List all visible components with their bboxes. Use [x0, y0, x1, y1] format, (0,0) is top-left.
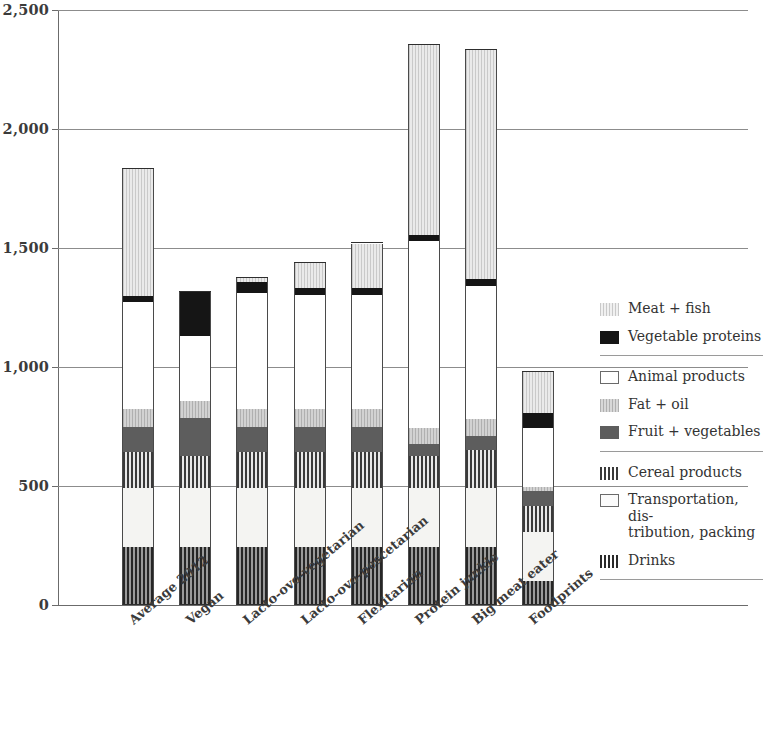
legend-item[interactable]: Cereal products: [600, 464, 763, 481]
bar-segment-fruit[interactable]: [179, 418, 211, 456]
legend-item[interactable]: Fruit + vegetables: [600, 423, 763, 440]
bar-segment-vegprot[interactable]: [122, 296, 154, 302]
bar-segment-fat[interactable]: [122, 409, 154, 427]
bar-segment-transport[interactable]: [122, 488, 154, 546]
gridline: [58, 10, 748, 11]
legend-item-label: Meat + fish: [628, 300, 711, 317]
y-axis-line: [58, 10, 59, 606]
bar[interactable]: [351, 10, 383, 605]
bar-top-cap: [351, 242, 383, 243]
bar-segment-transport[interactable]: [294, 488, 326, 546]
bar-segment-transport[interactable]: [465, 488, 497, 546]
vegetable-proteins-swatch: [600, 331, 619, 344]
bar-segment-animal[interactable]: [294, 295, 326, 409]
bar-segment-meat[interactable]: [236, 278, 268, 282]
bar-top-cap: [522, 371, 554, 372]
legend-item-label: Fat + oil: [628, 396, 689, 413]
bar-segment-animal[interactable]: [351, 295, 383, 409]
animal-products-swatch: [600, 371, 619, 384]
bar-segment-fruit[interactable]: [351, 427, 383, 452]
bar-segment-vegprot[interactable]: [408, 235, 440, 241]
bar-top-cap: [179, 291, 211, 292]
bar-segment-animal[interactable]: [122, 302, 154, 409]
bar-top-cap: [122, 168, 154, 169]
y-axis-tick-label: 500: [18, 477, 49, 494]
legend-separator: [600, 355, 763, 356]
bar-segment-fat[interactable]: [351, 409, 383, 427]
bar-segment-cereal[interactable]: [465, 450, 497, 488]
bar-segment-vegprot[interactable]: [179, 292, 211, 336]
gridline: [58, 129, 748, 130]
bar-segment-cereal[interactable]: [351, 452, 383, 488]
bar-segment-vegprot[interactable]: [294, 288, 326, 296]
bar-segment-fat[interactable]: [408, 428, 440, 444]
bar-top-cap: [408, 44, 440, 45]
bar[interactable]: [179, 10, 211, 605]
bar-segment-meat[interactable]: [522, 372, 554, 414]
bar-segment-cereal[interactable]: [522, 506, 554, 532]
bar-segment-cereal[interactable]: [294, 452, 326, 488]
y-axis-tick-label: 1,000: [3, 358, 49, 375]
legend-item[interactable]: Vegetable proteins: [600, 328, 763, 345]
bar[interactable]: [465, 10, 497, 605]
legend-item-label: Transportation, dis-tribution, packing: [628, 491, 763, 541]
legend-item-label: Animal products: [628, 368, 745, 385]
transportation-swatch: [600, 494, 619, 507]
bar[interactable]: [294, 10, 326, 605]
legend-item[interactable]: Transportation, dis-tribution, packing: [600, 491, 763, 541]
bar-segment-meat[interactable]: [122, 169, 154, 296]
bar-segment-cereal[interactable]: [408, 456, 440, 488]
y-axis-tick-label: 2,500: [3, 1, 49, 18]
bar-top-cap: [294, 262, 326, 263]
bar-segment-fat[interactable]: [465, 419, 497, 436]
bar-segment-fat[interactable]: [179, 401, 211, 418]
bar-segment-fat[interactable]: [236, 409, 268, 427]
bar-segment-animal[interactable]: [465, 286, 497, 419]
legend-item[interactable]: Meat + fish: [600, 300, 763, 317]
bar-segment-vegprot[interactable]: [465, 279, 497, 286]
legend-item[interactable]: Animal products: [600, 368, 763, 385]
bar-segment-animal[interactable]: [522, 428, 554, 488]
bar-segment-meat[interactable]: [294, 263, 326, 288]
y-axis-tick-label: 2,000: [3, 120, 49, 137]
bar[interactable]: [236, 10, 268, 605]
chart-legend: Meat + fishVegetable proteinsAnimal prod…: [600, 300, 763, 592]
fat-oil-swatch: [600, 399, 619, 412]
bar-segment-fruit[interactable]: [122, 427, 154, 452]
bar-segment-fruit[interactable]: [465, 436, 497, 450]
drinks-swatch: [600, 555, 619, 568]
bar-segment-animal[interactable]: [179, 336, 211, 401]
legend-separator: [600, 451, 763, 452]
bar-segment-meat[interactable]: [351, 244, 383, 288]
bar-segment-fat[interactable]: [522, 487, 554, 491]
bar-segment-meat[interactable]: [408, 45, 440, 235]
bar-segment-vegprot[interactable]: [351, 288, 383, 296]
legend-item-label: Cereal products: [628, 464, 742, 481]
bar-segment-vegprot[interactable]: [236, 282, 268, 293]
legend-separator: [600, 579, 763, 580]
bar-segment-animal[interactable]: [408, 241, 440, 428]
gridline: [58, 248, 748, 249]
bar-segment-fruit[interactable]: [408, 444, 440, 456]
bar[interactable]: [522, 10, 554, 605]
bar-segment-animal[interactable]: [236, 293, 268, 410]
bar-segment-cereal[interactable]: [179, 456, 211, 488]
legend-item[interactable]: Fat + oil: [600, 396, 763, 413]
legend-item[interactable]: Drinks: [600, 552, 763, 569]
bar[interactable]: [122, 10, 154, 605]
legend-item-label: Drinks: [628, 552, 675, 569]
bar-segment-fruit[interactable]: [522, 491, 554, 506]
bar-segment-fruit[interactable]: [236, 427, 268, 452]
bar-segment-fruit[interactable]: [294, 427, 326, 452]
cereal-products-swatch: [600, 467, 619, 480]
legend-item-label: Fruit + vegetables: [628, 423, 760, 440]
bar-segment-cereal[interactable]: [122, 452, 154, 488]
bar-segment-fat[interactable]: [294, 409, 326, 427]
bar-segment-transport[interactable]: [179, 488, 211, 546]
bar-top-cap: [236, 277, 268, 278]
bar-segment-cereal[interactable]: [236, 452, 268, 488]
y-axis-tick-label: 1,500: [3, 239, 49, 256]
bar-segment-meat[interactable]: [465, 50, 497, 278]
bar-segment-transport[interactable]: [236, 488, 268, 546]
bar-segment-vegprot[interactable]: [522, 413, 554, 427]
